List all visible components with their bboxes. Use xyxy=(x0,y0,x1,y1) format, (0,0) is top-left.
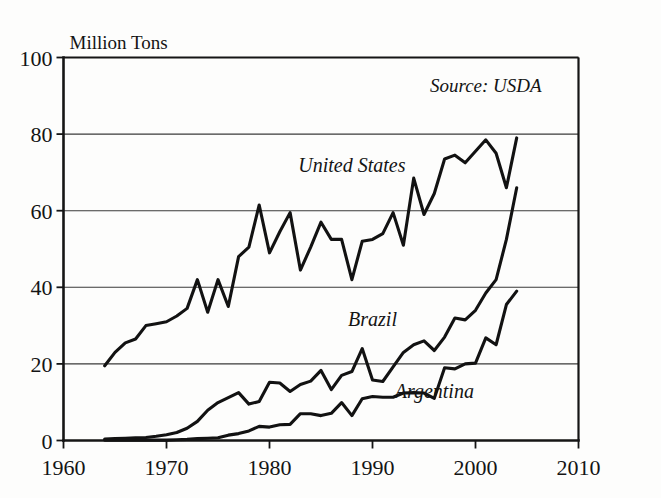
series-line-argentina xyxy=(105,291,517,440)
x-tick-label-2000: 2000 xyxy=(454,455,498,480)
x-tick-label-1960: 1960 xyxy=(42,455,86,480)
y-tick-label-40: 40 xyxy=(31,275,53,300)
x-tick-label-1970: 1970 xyxy=(145,455,189,480)
chart-figure: 020406080100196019701980199020002010Mill… xyxy=(0,0,661,498)
gridlines-group xyxy=(64,58,579,364)
series-label-brazil: Brazil xyxy=(348,308,397,330)
x-tick-label-1980: 1980 xyxy=(248,455,292,480)
y-tick-label-100: 100 xyxy=(20,46,53,71)
y-tick-label-80: 80 xyxy=(31,122,53,147)
line-chart-svg: 020406080100196019701980199020002010Mill… xyxy=(0,0,661,498)
series-label-argentina: Argentina xyxy=(393,380,474,403)
x-tick-label-2010: 2010 xyxy=(557,455,601,480)
y-tick-label-60: 60 xyxy=(31,199,53,224)
tick-marks-group xyxy=(57,58,579,449)
x-tick-label-1990: 1990 xyxy=(351,455,395,480)
y-tick-label-20: 20 xyxy=(31,352,53,377)
source-note: Source: USDA xyxy=(430,75,542,96)
plot-frame xyxy=(64,58,579,441)
y-axis-title: Million Tons xyxy=(70,32,168,53)
y-tick-label-0: 0 xyxy=(42,429,53,454)
series-label-united-states: United States xyxy=(298,154,405,176)
